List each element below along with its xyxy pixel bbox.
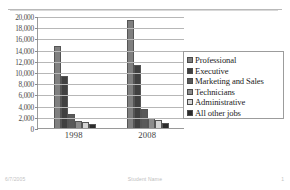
bar xyxy=(155,120,162,128)
bar xyxy=(82,122,89,128)
y-axis-tick xyxy=(35,107,38,108)
gridline xyxy=(38,51,184,52)
legend-label: All other jobs xyxy=(195,108,241,118)
legend-swatch-icon xyxy=(187,99,193,105)
y-axis-tick-label: 14,000 xyxy=(15,46,34,55)
legend-item[interactable]: All other jobs xyxy=(187,108,281,119)
legend-swatch-icon xyxy=(187,89,193,95)
y-axis-tick-label: 8,000 xyxy=(19,80,34,89)
legend-item[interactable]: Executive xyxy=(187,66,281,77)
y-axis-tick xyxy=(35,28,38,29)
footer-page-number: 1 xyxy=(281,176,284,182)
legend-item[interactable]: Administrative xyxy=(187,97,281,108)
y-axis-tick-label: 10,000 xyxy=(15,69,34,78)
legend-swatch-icon xyxy=(187,68,193,74)
y-axis-tick xyxy=(35,118,38,119)
bar xyxy=(127,20,134,128)
y-axis-tick-label: 20,000 xyxy=(15,13,34,22)
bar xyxy=(148,118,155,128)
y-axis-tick xyxy=(35,17,38,18)
y-axis-tick-label: 18,000 xyxy=(15,24,34,33)
legend-swatch-icon xyxy=(187,78,193,84)
gridline xyxy=(38,62,184,63)
bar xyxy=(162,123,169,128)
y-axis-tick xyxy=(35,51,38,52)
y-axis-tick-label: 0 xyxy=(31,125,34,134)
y-axis-tick xyxy=(35,62,38,63)
slide-top-rule-secondary xyxy=(10,10,278,11)
gridline xyxy=(38,95,184,96)
legend-label: Marketing and Sales xyxy=(195,76,264,86)
bar-chart: 20,00018,00016,00014,00012,00010,0008,00… xyxy=(2,17,184,147)
legend-label: Administrative xyxy=(195,97,245,107)
x-axis-labels: 19982008 xyxy=(37,130,184,140)
y-axis-tick-label: 4,000 xyxy=(19,102,34,111)
gridline xyxy=(38,28,184,29)
y-axis-tick xyxy=(35,73,38,74)
y-axis-tick-label: 16,000 xyxy=(15,35,34,44)
y-axis-tick-label: 2,000 xyxy=(19,113,34,122)
y-axis-tick xyxy=(35,95,38,96)
gridline xyxy=(38,39,184,40)
legend-label: Executive xyxy=(195,66,228,76)
chart-legend: ProfessionalExecutiveMarketing and Sales… xyxy=(183,51,284,119)
y-axis-tick-label: 12,000 xyxy=(15,57,34,66)
y-axis-tick xyxy=(35,84,38,85)
gridline xyxy=(38,84,184,85)
plot-area xyxy=(37,17,184,129)
gridline xyxy=(38,73,184,74)
bar xyxy=(54,46,61,128)
slide: 20,00018,00016,00014,00012,00010,0008,00… xyxy=(0,0,290,190)
legend-item[interactable]: Technicians xyxy=(187,87,281,98)
y-axis-tick-label: 6,000 xyxy=(19,91,34,100)
legend-item[interactable]: Professional xyxy=(187,55,281,66)
legend-item[interactable]: Marketing and Sales xyxy=(187,76,281,87)
bar xyxy=(68,114,75,128)
legend-label: Professional xyxy=(195,55,236,65)
bar xyxy=(89,124,96,128)
y-axis-labels: 20,00018,00016,00014,00012,00010,0008,00… xyxy=(2,17,36,129)
legend-label: Technicians xyxy=(195,87,235,97)
footer-author: Student Name xyxy=(0,176,290,182)
y-axis-tick xyxy=(35,39,38,40)
slide-footer: 6/7/2005 Student Name 1 xyxy=(0,176,290,186)
x-axis-category-label: 2008 xyxy=(138,130,156,140)
gridline xyxy=(38,118,184,119)
gridline xyxy=(38,107,184,108)
gridline xyxy=(38,17,184,18)
bar xyxy=(75,121,82,128)
x-axis-category-label: 1998 xyxy=(65,130,83,140)
legend-swatch-icon xyxy=(187,57,193,63)
legend-swatch-icon xyxy=(187,110,193,116)
